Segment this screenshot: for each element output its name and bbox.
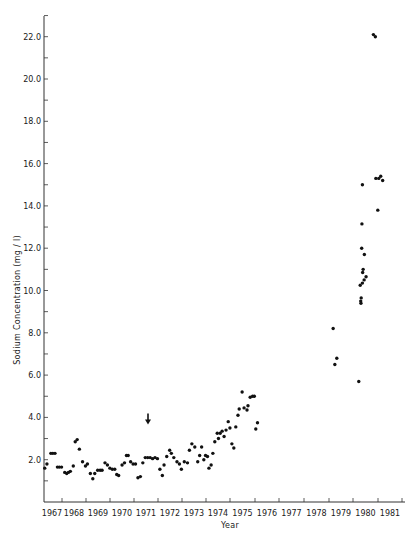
data-point [106, 463, 109, 466]
data-point [188, 448, 191, 451]
data-point [381, 179, 384, 182]
data-point [198, 454, 201, 457]
x-tick-label: 1975 [232, 509, 252, 518]
x-tick-label: 1976 [257, 509, 277, 518]
x-tick-label: 1980 [355, 509, 375, 518]
data-point [168, 448, 171, 451]
x-tick-label: 1973 [184, 509, 204, 518]
data-point [361, 183, 364, 186]
data-point [165, 455, 168, 458]
data-point [379, 175, 382, 178]
y-tick-label: 20.0 [23, 75, 41, 84]
data-point [361, 268, 364, 271]
y-axis: 2.04.06.08.010.012.014.016.018.020.022.0 [23, 16, 48, 502]
data-point [236, 414, 239, 417]
y-tick-label: 6.0 [28, 371, 41, 380]
x-tick-label: 1974 [208, 509, 228, 518]
data-point [139, 475, 142, 478]
data-point [246, 404, 249, 407]
data-point [222, 435, 225, 438]
data-point [217, 437, 220, 440]
y-tick-label: 16.0 [23, 160, 41, 169]
data-point [232, 446, 235, 449]
x-tick-label: 1978 [306, 509, 326, 518]
data-point [363, 253, 366, 256]
data-point [240, 390, 243, 393]
data-point [69, 470, 72, 473]
data-point [113, 468, 116, 471]
y-tick-label: 10.0 [23, 287, 41, 296]
x-axis: 1967196819691970197119721973197419751976… [42, 498, 405, 518]
x-tick-label: 1970 [112, 509, 132, 518]
scatter-chart: 2.04.06.08.010.012.014.016.018.020.022.0… [0, 0, 417, 544]
y-tick-label: 4.0 [28, 413, 41, 422]
x-tick-label: 1977 [281, 509, 301, 518]
data-point [331, 327, 334, 330]
data-point [126, 454, 129, 457]
data-point [53, 452, 56, 455]
data-point [256, 421, 259, 424]
data-point [220, 429, 223, 432]
data-point [180, 468, 183, 471]
data-point [196, 460, 199, 463]
x-tick-label: 1969 [88, 509, 108, 518]
data-point [227, 420, 230, 423]
data-point [360, 222, 363, 225]
data-point [43, 466, 46, 469]
data-point [89, 472, 92, 475]
data-point [81, 460, 84, 463]
data-point [359, 301, 362, 304]
data-point [134, 462, 137, 465]
data-point [228, 426, 231, 429]
data-point [374, 35, 377, 38]
data-point [156, 457, 159, 460]
data-point [93, 472, 96, 475]
data-point [178, 462, 181, 465]
x-tick-label: 1968 [64, 509, 84, 518]
data-point [193, 445, 196, 448]
data-point [242, 406, 245, 409]
data-point [216, 432, 219, 435]
data-point [86, 462, 89, 465]
data-point [234, 425, 237, 428]
data-point [45, 462, 48, 465]
data-point [333, 363, 336, 366]
data-point [161, 474, 164, 477]
y-axis-title: Sodium Concentration (mg / l) [13, 235, 22, 365]
data-point [238, 407, 241, 410]
data-point [357, 380, 360, 383]
x-tick-label: 1979 [331, 509, 351, 518]
data-point [172, 456, 175, 459]
x-tick-label: 1981 [380, 509, 400, 518]
data-point [335, 356, 338, 359]
data-point [75, 438, 78, 441]
data-point [245, 408, 248, 411]
data-point [91, 477, 94, 480]
data-point [78, 447, 81, 450]
data-point [72, 464, 75, 467]
data-point [100, 469, 103, 472]
x-tick-label: 1972 [160, 509, 180, 518]
y-tick-label: 14.0 [23, 202, 41, 211]
data-point [364, 275, 367, 278]
data-point [209, 463, 212, 466]
data-point [224, 428, 227, 431]
data-point [213, 440, 216, 443]
data-point [361, 271, 364, 274]
data-point [117, 474, 120, 477]
data-point [190, 442, 193, 445]
data-point [206, 455, 209, 458]
data-point [202, 458, 205, 461]
y-tick-label: 18.0 [23, 117, 41, 126]
data-point [60, 465, 63, 468]
data-point [162, 463, 165, 466]
x-tick-label: 1971 [136, 509, 156, 518]
data-point [207, 466, 210, 469]
data-point [211, 452, 214, 455]
data-point [360, 296, 363, 299]
data-point [254, 427, 257, 430]
data-point [183, 460, 186, 463]
data-point [158, 468, 161, 471]
data-point [230, 442, 233, 445]
y-tick-label: 2.0 [28, 456, 41, 465]
